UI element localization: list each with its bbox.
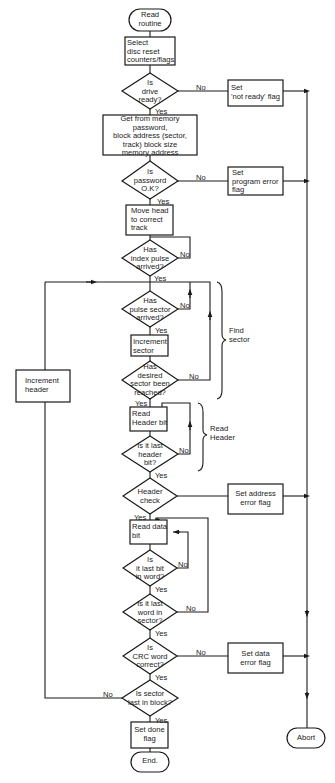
node-drive-ready: Is drive ready? bbox=[132, 79, 168, 105]
node-header-check: Header check bbox=[128, 488, 172, 505]
find-sector-brace bbox=[217, 282, 226, 399]
node-last-bit-in-word: Is it last bit in word? bbox=[124, 556, 176, 582]
edge-label-yes: Yes bbox=[154, 274, 166, 283]
edge-label-no: No bbox=[103, 690, 113, 699]
edge-label-yes: Yes bbox=[155, 107, 167, 116]
node-set-address-error: Set address error flag bbox=[228, 490, 283, 507]
node-increment-header: Increment header bbox=[25, 377, 70, 394]
read-header-brace bbox=[198, 403, 207, 471]
node-sector-last-in-block: Is sector last in block? bbox=[122, 690, 178, 707]
edge-label-no: No bbox=[186, 604, 196, 613]
node-move-head: Move head to correct track bbox=[131, 207, 176, 233]
edge-label-yes: Yes bbox=[155, 716, 167, 725]
edge-label-no: No bbox=[196, 83, 206, 92]
node-select-disc: Select disc reset counters/flags bbox=[127, 39, 177, 65]
group-label-find-sector: Find sector bbox=[229, 327, 250, 344]
node-increment-sector: Increment sector bbox=[133, 338, 173, 355]
group-label-read-header: Read Header bbox=[210, 425, 235, 442]
node-desired-sector: Has desired sector been reached? bbox=[124, 363, 176, 397]
edge-label-no: No bbox=[180, 301, 190, 310]
edge-label-yes: Yes bbox=[135, 399, 147, 408]
edge-label-yes: Yes bbox=[155, 673, 167, 682]
edge-label-yes: Yes bbox=[157, 197, 169, 206]
node-last-word-in-sector: Is it last word in sector? bbox=[126, 600, 174, 626]
edge-label-yes: Yes bbox=[155, 471, 167, 480]
edge-label-no: No bbox=[180, 250, 190, 259]
edge-label-no: No bbox=[189, 372, 199, 381]
node-pulse-sector: Has pulse sector arrived? bbox=[122, 297, 178, 323]
edge-label-no: No bbox=[178, 560, 188, 569]
node-set-done: Set done flag bbox=[131, 726, 168, 743]
node-abort: Abort bbox=[287, 734, 325, 743]
node-index-pulse: Has index pulse arrived? bbox=[124, 246, 176, 272]
edge-label-yes: Yes bbox=[155, 585, 167, 594]
node-crc-correct: Is CRC word correct? bbox=[124, 644, 176, 670]
edge-label-yes: Yes bbox=[155, 629, 167, 638]
edge-label-no: No bbox=[179, 446, 189, 455]
node-read-header-bit: Read Header bit bbox=[132, 410, 172, 427]
node-set-program-error: Set program error flag bbox=[232, 169, 287, 195]
node-get-from-memory: Get from memory password, block address … bbox=[103, 115, 197, 158]
node-read-data-bit: Read data bit bbox=[132, 523, 172, 540]
node-set-not-ready: Set 'not ready' flag bbox=[231, 84, 286, 101]
edge-label-no: No bbox=[196, 173, 206, 182]
edge-label-yes: Yes bbox=[155, 326, 167, 335]
node-read-routine: Read routine bbox=[129, 11, 171, 28]
node-set-data-error: Set data error flag bbox=[228, 650, 283, 667]
node-end: End. bbox=[131, 757, 169, 766]
edge-label-yes: Yes bbox=[134, 513, 146, 522]
node-last-header-bit: Is it last header bit? bbox=[126, 442, 174, 468]
node-password-ok: Is password O.K? bbox=[130, 168, 170, 194]
edge-label-no: No bbox=[196, 648, 206, 657]
